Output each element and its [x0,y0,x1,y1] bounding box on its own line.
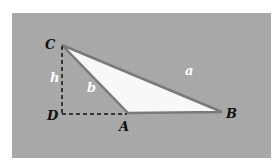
vertex-label-d: D [46,108,59,123]
side-label-a: a [185,63,193,78]
vertex-label-c: C [45,37,56,52]
side-label-h: h [50,70,59,85]
vertex-label-b: B [225,106,237,121]
triangle-diagram: C D A B h b a [0,0,280,166]
triangle-abc [62,45,222,113]
vertex-label-a: A [117,119,129,134]
side-label-b: b [87,80,96,95]
